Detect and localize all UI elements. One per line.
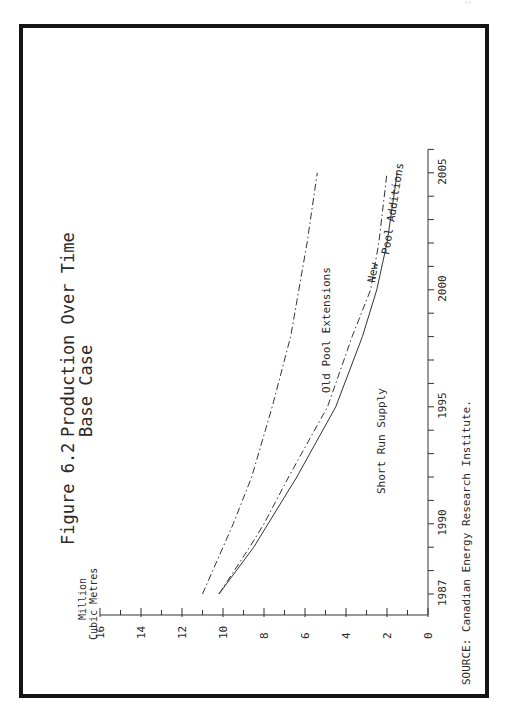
value-tick-label: 2 [381, 632, 394, 639]
year-tick-label: 1995 [436, 392, 449, 419]
figure-label: Figure 6.2 [58, 443, 78, 545]
value-tick-label: 12 [176, 626, 189, 639]
value-tick-label: 14 [135, 625, 148, 639]
y-axis-label-line1: Million [77, 578, 88, 620]
figure-subtitle: Base Case [76, 345, 96, 437]
year-tick-label: 2005 [436, 158, 449, 185]
value-tick-label: 10 [217, 626, 230, 639]
year-tick-label: 2000 [436, 275, 449, 302]
series-new-pool-additions [219, 173, 387, 594]
value-tick-label: 0 [422, 632, 435, 639]
year-tick-label: 1987 [436, 580, 449, 607]
value-tick-label: 16 [94, 626, 107, 639]
year-tick-label: 1990 [436, 509, 449, 536]
value-tick-label: 4 [340, 632, 353, 639]
series-short-run-supply [219, 173, 397, 594]
value-tick-label: 6 [299, 632, 312, 639]
label-old-pool-extensions: Old Pool Extensions [320, 267, 333, 393]
series-lines [203, 173, 398, 594]
label-short-run-supply: Short Run Supply [375, 388, 388, 494]
chart: Figure 6.2 Production Over Time Base Cas… [0, 0, 511, 719]
value-tick-label: 8 [258, 632, 271, 639]
source-note: SOURCE: Canadian Energy Research Institu… [460, 400, 473, 685]
figure-title: Production Over Time [58, 232, 78, 437]
